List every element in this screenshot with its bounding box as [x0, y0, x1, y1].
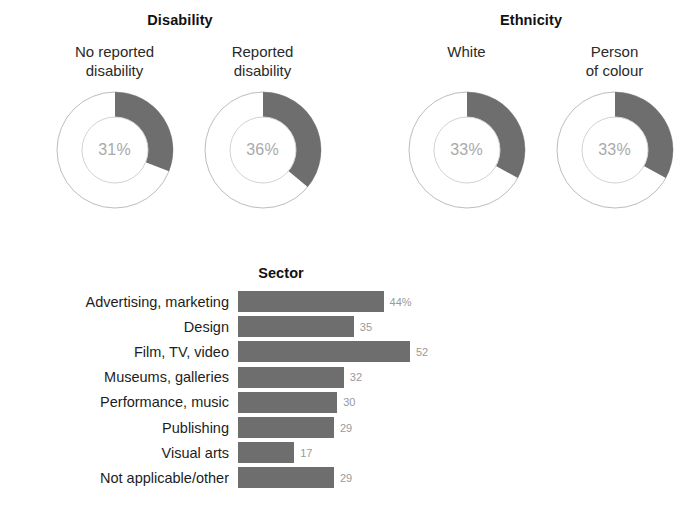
- bar-rect: [238, 367, 344, 388]
- donut-label-line1: White: [447, 43, 485, 60]
- bar-rect: [238, 417, 334, 438]
- donut-chart-person-of-colour: Person of colour 33%: [542, 42, 687, 227]
- donut-label-line2: disability: [234, 62, 292, 79]
- bar-rect: [238, 316, 354, 337]
- donut-label-line2: of colour: [586, 62, 644, 79]
- panel-sector: Sector Advertising, marketing44%Design35…: [0, 258, 692, 506]
- bar-row: Not applicable/other29: [238, 467, 478, 488]
- donut-label-white: White: [392, 42, 542, 61]
- bar-row: Visual arts17: [238, 442, 478, 463]
- panel-title-disability: Disability: [147, 12, 212, 28]
- donut-ring-white: 33%: [405, 88, 529, 212]
- sector-bar-chart: Advertising, marketing44%Design35Film, T…: [238, 291, 478, 491]
- panel-title-ethnicity: Ethnicity: [500, 12, 562, 28]
- donut-label-reported-disability: Reported disability: [188, 42, 338, 80]
- panel-ethnicity: Ethnicity White 33% Person of colour: [346, 0, 692, 250]
- donut-label-no-reported-disability: No reported disability: [40, 42, 190, 80]
- bar-value-label: 52: [416, 346, 428, 358]
- donut-label-person-of-colour: Person of colour: [540, 42, 690, 80]
- donut-chart-no-reported-disability: No reported disability 31%: [42, 42, 187, 227]
- bar-value-label: 30: [343, 396, 355, 408]
- donut-chart-reported-disability: Reported disability 36%: [190, 42, 335, 227]
- bar-category-label: Not applicable/other: [100, 470, 229, 486]
- donut-label-line1: Person: [591, 43, 639, 60]
- bar-value-label: 44%: [390, 296, 412, 308]
- bar-row: Design35: [238, 316, 478, 337]
- donut-ring-no-reported-disability: 31%: [53, 88, 177, 212]
- bar-category-label: Publishing: [162, 420, 229, 436]
- donut-ring-reported-disability: 36%: [201, 88, 325, 212]
- bar-row: Publishing29: [238, 417, 478, 438]
- donut-label-line1: Reported: [232, 43, 294, 60]
- donut-center-value-white: 33%: [450, 141, 483, 159]
- bar-category-label: Film, TV, video: [134, 344, 229, 360]
- donut-label-line2: disability: [86, 62, 144, 79]
- bar-category-label: Performance, music: [100, 394, 229, 410]
- donut-ring-person-of-colour: 33%: [553, 88, 677, 212]
- donut-center-value-person-of-colour: 33%: [598, 141, 631, 159]
- bar-rect: [238, 341, 410, 362]
- bar-row: Advertising, marketing44%: [238, 291, 478, 312]
- donut-label-line1: No reported: [75, 43, 154, 60]
- bar-rect: [238, 291, 384, 312]
- donut-center-value-reported-disability: 36%: [246, 141, 279, 159]
- donut-chart-white: White 33%: [394, 42, 539, 227]
- donut-center-value-no-reported-disability: 31%: [98, 141, 131, 159]
- bar-value-label: 32: [350, 371, 362, 383]
- panel-disability: Disability No reported disability 31% Re…: [0, 0, 346, 250]
- bar-value-label: 29: [340, 422, 352, 434]
- bar-rect: [238, 442, 294, 463]
- bar-category-label: Advertising, marketing: [86, 294, 229, 310]
- bar-row: Performance, music30: [238, 392, 478, 413]
- bar-category-label: Visual arts: [162, 445, 229, 461]
- panel-title-sector: Sector: [258, 265, 304, 281]
- bar-row: Museums, galleries32: [238, 367, 478, 388]
- bar-row: Film, TV, video52: [238, 341, 478, 362]
- bar-rect: [238, 392, 337, 413]
- bar-value-label: 17: [300, 447, 312, 459]
- bar-value-label: 35: [360, 321, 372, 333]
- bar-category-label: Museums, galleries: [104, 369, 229, 385]
- bar-value-label: 29: [340, 472, 352, 484]
- bar-category-label: Design: [184, 319, 229, 335]
- bar-rect: [238, 467, 334, 488]
